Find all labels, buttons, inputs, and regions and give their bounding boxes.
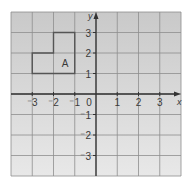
y-tick-label: ⁻3	[80, 151, 91, 162]
x-tick-label: ⁻3	[27, 97, 38, 108]
y-tick-label: ⁻2	[80, 130, 91, 141]
x-tick-label: 1	[114, 97, 120, 108]
shape-label: A	[62, 58, 69, 69]
x-tick-label: 2	[136, 97, 142, 108]
x-axis-label: x	[176, 97, 182, 107]
y-tick-label: ⁻1	[80, 110, 91, 121]
y-tick-label: 2	[85, 48, 91, 59]
x-tick-label: 0	[86, 97, 92, 108]
y-axis-label: y	[87, 11, 93, 21]
y-tick-label: 1	[85, 69, 91, 80]
coordinate-grid-figure: A x y ⁻3⁻2⁻10123321⁻1⁻2⁻3	[0, 0, 187, 185]
x-tick-label: 3	[157, 97, 163, 108]
coordinate-plane: A x y ⁻3⁻2⁻10123321⁻1⁻2⁻3	[0, 0, 187, 185]
x-tick-label: ⁻1	[69, 97, 80, 108]
y-tick-label: 3	[85, 28, 91, 39]
x-tick-label: ⁻2	[48, 97, 59, 108]
